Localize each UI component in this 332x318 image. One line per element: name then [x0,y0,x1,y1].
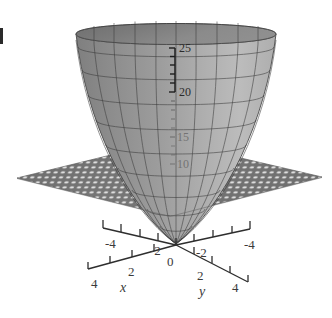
x-tick-label-4: 4 [91,276,98,291]
x-tick-label-2: 2 [128,264,135,279]
page-edge-artifact [0,28,3,44]
x-tick-label-neg4: -4 [105,236,116,251]
z-tick-label-25: 25 [179,41,191,55]
z-tick-label-10: 10 [177,157,189,171]
y-axis-label: y [197,284,206,299]
x-tick-label-0: 0 [167,254,174,269]
y-tick-label-neg2: -2 [196,245,207,260]
figure-container: 25 20 15 10 0 2 4 x [0,0,332,318]
x-axis-label: x [119,280,127,295]
z-tick-label-15: 15 [177,130,189,144]
z-tick-label-20: 20 [179,85,191,99]
y-tick-label-neg4: -4 [244,237,255,252]
y-tick-label-4: 4 [232,280,239,295]
y-tick-label-2: 2 [197,268,204,283]
x-tick-label-neg2: -2 [150,243,161,258]
surface-plot-3d: 25 20 15 10 0 2 4 x [0,0,332,318]
